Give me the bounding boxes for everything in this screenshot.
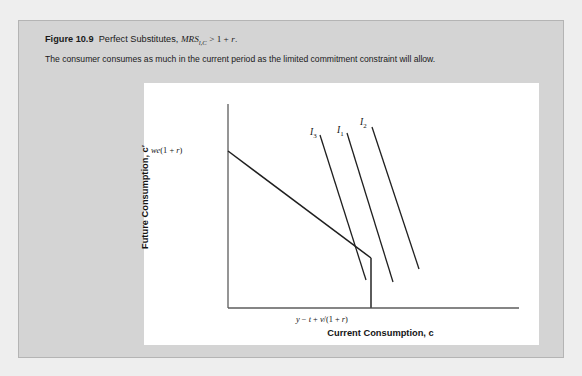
indifference-curve-i2	[372, 127, 419, 269]
y-axis-title: Future Consumption, c′	[140, 87, 150, 307]
figure-title-math-sub: l,C	[199, 39, 207, 46]
figure-label: Figure	[45, 34, 73, 44]
indifference-curve-i3	[320, 135, 366, 280]
figure-subtitle: The consumer consumes as much in the cur…	[45, 53, 545, 65]
indifference-curve-i1	[347, 133, 393, 282]
figure-title-math-base: MRS	[181, 34, 199, 44]
figure-title-period: .	[235, 34, 237, 44]
x-axis-title: Current Consumption, c	[144, 328, 539, 338]
figure-title-text: Perfect Substitutes,	[99, 34, 179, 44]
curve-label-i1: I1	[337, 124, 344, 137]
figure-title-math-rel: > 1 +	[209, 34, 229, 44]
y-intercept-tick-label: we(1 + r)	[151, 145, 182, 155]
figure-container: Figure 10.9 Perfect Substitutes, MRSl,C …	[18, 20, 564, 358]
curve-label-i3: I3	[310, 126, 317, 139]
x-axis-tick-label: y − t + v/(1 + r)	[296, 314, 348, 324]
figure-caption: Figure 10.9 Perfect Substitutes, MRSl,C …	[45, 33, 545, 65]
screenshot-root: Figure 10.9 Perfect Substitutes, MRSl,C …	[0, 0, 582, 376]
figure-title: Figure 10.9 Perfect Substitutes, MRSl,C …	[45, 33, 545, 49]
figure-number: 10.9	[76, 34, 94, 44]
budget-constraint-line	[228, 151, 371, 258]
curve-label-i2: I2	[360, 116, 367, 129]
plot-panel: Future Consumption, c′ Current Consumpti…	[144, 83, 539, 345]
chart-canvas	[144, 83, 539, 345]
